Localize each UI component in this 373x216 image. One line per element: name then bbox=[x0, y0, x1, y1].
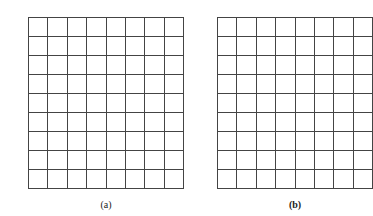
grid-cell bbox=[145, 94, 164, 113]
grid-cell bbox=[48, 18, 67, 37]
grid-cell bbox=[296, 56, 315, 75]
grid-cell bbox=[87, 75, 106, 94]
grid-cell bbox=[334, 56, 353, 75]
grid-cell bbox=[87, 113, 106, 132]
grid-cell bbox=[29, 75, 48, 94]
grid-cell bbox=[218, 113, 237, 132]
grid-cell bbox=[257, 75, 276, 94]
grid-cell bbox=[29, 113, 48, 132]
grid-cell bbox=[237, 75, 256, 94]
grid-cell bbox=[29, 18, 48, 37]
grid-cell bbox=[107, 18, 126, 37]
grid-cell bbox=[165, 56, 184, 75]
grid-cell bbox=[87, 94, 106, 113]
grid-panel-a bbox=[28, 17, 184, 189]
grid-cell bbox=[296, 151, 315, 170]
grid-cell bbox=[237, 132, 256, 151]
grid-cell bbox=[145, 151, 164, 170]
grid-cell bbox=[296, 75, 315, 94]
grid-cell bbox=[296, 132, 315, 151]
grid-cell bbox=[107, 75, 126, 94]
grid-cell bbox=[257, 94, 276, 113]
grid-cell bbox=[315, 94, 334, 113]
grid-cell bbox=[237, 151, 256, 170]
grid-cell bbox=[48, 151, 67, 170]
grid-cell bbox=[165, 18, 184, 37]
grid-cell bbox=[145, 75, 164, 94]
grid-cell bbox=[354, 132, 373, 151]
grid-cell bbox=[276, 151, 295, 170]
grid-cell bbox=[165, 132, 184, 151]
grid-cell bbox=[334, 75, 353, 94]
grid-cell bbox=[126, 132, 145, 151]
grid-cell bbox=[29, 94, 48, 113]
grid-cell bbox=[29, 170, 48, 189]
grid-cell bbox=[276, 170, 295, 189]
grid-cell bbox=[126, 151, 145, 170]
grid-cell bbox=[29, 132, 48, 151]
grid-cell bbox=[126, 75, 145, 94]
grid-cell bbox=[68, 56, 87, 75]
grid-cell bbox=[257, 37, 276, 56]
grid-cell bbox=[68, 75, 87, 94]
grid-cell bbox=[296, 37, 315, 56]
grid-cell bbox=[296, 18, 315, 37]
grid-cell bbox=[48, 94, 67, 113]
grid-cell bbox=[276, 56, 295, 75]
grid-cell bbox=[107, 37, 126, 56]
grid-cell bbox=[334, 113, 353, 132]
grid-cell bbox=[87, 37, 106, 56]
grid-cell bbox=[315, 132, 334, 151]
grid-cell bbox=[107, 56, 126, 75]
grid-cell bbox=[145, 56, 164, 75]
grid-cell bbox=[126, 94, 145, 113]
grid-cell bbox=[218, 75, 237, 94]
grid-cell bbox=[237, 94, 256, 113]
grid-cell bbox=[276, 37, 295, 56]
grid-cell bbox=[354, 113, 373, 132]
grid-cell bbox=[218, 170, 237, 189]
grid-cell bbox=[315, 75, 334, 94]
grid-cell bbox=[145, 18, 164, 37]
grid-cell bbox=[237, 113, 256, 132]
grid-cell bbox=[165, 113, 184, 132]
grid-cell bbox=[107, 151, 126, 170]
grid-cell bbox=[29, 151, 48, 170]
grid-cell bbox=[165, 151, 184, 170]
grid-cell bbox=[354, 37, 373, 56]
grid-cell bbox=[276, 18, 295, 37]
grid-cell bbox=[315, 37, 334, 56]
grid-cell bbox=[237, 56, 256, 75]
grid-cell bbox=[237, 18, 256, 37]
grid-cell bbox=[87, 151, 106, 170]
grid-cell bbox=[257, 170, 276, 189]
grid-cell bbox=[257, 56, 276, 75]
caption-a: (a) bbox=[86, 199, 126, 210]
grid-cell bbox=[165, 37, 184, 56]
grid-cell bbox=[354, 170, 373, 189]
grid-cell bbox=[68, 113, 87, 132]
grid-cell bbox=[48, 170, 67, 189]
grid-cell bbox=[334, 132, 353, 151]
grid-cell bbox=[107, 132, 126, 151]
grid-cell bbox=[126, 37, 145, 56]
grid-cell bbox=[276, 113, 295, 132]
grid-cell bbox=[29, 56, 48, 75]
grid-cell bbox=[145, 37, 164, 56]
grid-cell bbox=[315, 170, 334, 189]
grid-cell bbox=[354, 94, 373, 113]
grid-cell bbox=[68, 18, 87, 37]
grid-cell bbox=[354, 18, 373, 37]
grid-cell bbox=[276, 132, 295, 151]
grid-cell bbox=[107, 170, 126, 189]
grid-cell bbox=[68, 170, 87, 189]
grid-cell bbox=[145, 132, 164, 151]
grid-cell bbox=[68, 151, 87, 170]
grid-cell bbox=[107, 113, 126, 132]
grid-cell bbox=[126, 113, 145, 132]
grid-cell bbox=[334, 170, 353, 189]
grid-cell bbox=[68, 94, 87, 113]
grid-cell bbox=[296, 94, 315, 113]
grid-cell bbox=[48, 75, 67, 94]
grid-cell bbox=[29, 37, 48, 56]
